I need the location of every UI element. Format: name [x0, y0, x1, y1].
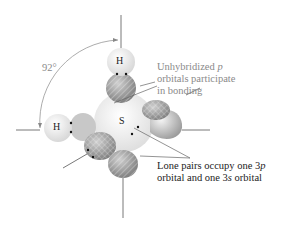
lone-pairs-line1-italic: p	[260, 160, 265, 171]
angle-label: 92°	[42, 62, 57, 74]
bonding-line1-italic: p	[217, 61, 222, 72]
lone-pairs-line2-suffix: orbital	[232, 172, 262, 183]
bonding-line1-prefix: Unhybridized	[157, 61, 217, 72]
p-orbital-hatch	[108, 150, 138, 178]
lone-pairs-line2-prefix: orbital and one 3	[157, 172, 228, 183]
lone-pairs-annotation: Lone pairs occupy one 3p orbital and one…	[157, 160, 265, 184]
h2s-orbital-diagram	[0, 0, 282, 229]
bonding-line3: in bonding	[157, 85, 235, 97]
p-orbital-hatch	[106, 73, 136, 103]
sulfur-label: S	[119, 115, 125, 126]
bonding-line2: orbitals participate	[157, 73, 235, 85]
lone-pairs-line1-prefix: Lone pairs occupy one 3	[157, 160, 260, 171]
hydrogen-left-label: H	[53, 121, 60, 132]
bonding-annotation: Unhybridized p orbitals participate in b…	[157, 61, 235, 97]
p-orbital-hatch	[142, 100, 170, 120]
hydrogen-top-label: H	[116, 55, 123, 66]
